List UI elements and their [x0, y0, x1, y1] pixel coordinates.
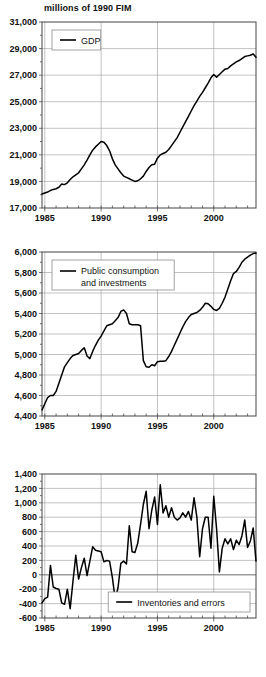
chart-panel-public-consumption: 4,4004,6004,8005,0005,2005,4005,6005,800…	[0, 228, 266, 456]
y-tick-label: 600	[22, 527, 37, 537]
legend-label: GDP	[81, 36, 101, 46]
y-tick-label: 800	[22, 512, 37, 522]
public-consumption-svg: 4,4004,6004,8005,0005,2005,4005,6005,800…	[0, 228, 266, 456]
x-tick-label: 1995	[147, 213, 167, 223]
x-tick-label: 1985	[35, 421, 55, 431]
legend-label: and investments	[81, 278, 147, 288]
y-tick-label: 5,400	[14, 309, 37, 319]
y-tick-label: 1,000	[14, 498, 37, 508]
y-tick-label: 5,800	[14, 268, 37, 278]
y-tick-label: 4,800	[14, 370, 37, 380]
data-series-2	[42, 485, 256, 609]
chart-panel-inventories: -600-400-20002004006008001,0001,2001,400…	[0, 456, 266, 677]
y-tick-label: 0	[32, 570, 37, 580]
y-tick-label: 6,000	[14, 247, 37, 257]
public-consumption-plot: 4,4004,6004,8005,0005,2005,4005,6005,800…	[0, 228, 266, 456]
y-tick-label: 21,000	[9, 150, 37, 160]
gdp-svg: 17,00019,00021,00023,00025,00027,00029,0…	[0, 0, 266, 228]
y-tick-label: 5,200	[14, 329, 37, 339]
y-tick-label: -600	[19, 613, 37, 623]
y-tick-label: 5,600	[14, 288, 37, 298]
chart-panel-gdp: millions of 1990 FIM 17,00019,00021,0002…	[0, 0, 266, 228]
y-tick-label: 27,000	[9, 70, 37, 80]
x-tick-label: 2000	[204, 421, 224, 431]
y-tick-label: 5,000	[14, 350, 37, 360]
y-tick-label: 1,200	[14, 484, 37, 494]
x-tick-label: 1995	[147, 421, 167, 431]
x-tick-label: 1990	[91, 421, 111, 431]
x-tick-label: 1995	[147, 623, 167, 633]
y-tick-label: 4,600	[14, 391, 37, 401]
figure-root: millions of 1990 FIM 17,00019,00021,0002…	[0, 0, 266, 677]
x-tick-label: 1985	[35, 623, 55, 633]
y-tick-label: 17,000	[9, 203, 37, 213]
x-tick-label: 1990	[91, 623, 111, 633]
inventories-plot: -600-400-20002004006008001,0001,2001,400…	[0, 456, 266, 677]
inventories-svg: -600-400-20002004006008001,0001,2001,400…	[0, 456, 266, 677]
x-tick-label: 1990	[91, 213, 111, 223]
x-tick-label: 1985	[35, 213, 55, 223]
gdp-plot: 17,00019,00021,00023,00025,00027,00029,0…	[0, 0, 266, 228]
y-tick-label: 1,400	[14, 469, 37, 479]
y-tick-label: 23,000	[9, 123, 37, 133]
x-tick-label: 2000	[204, 213, 224, 223]
y-tick-label: 29,000	[9, 44, 37, 54]
y-tick-label: 25,000	[9, 97, 37, 107]
y-tick-label: 400	[22, 541, 37, 551]
y-tick-label: -400	[19, 599, 37, 609]
y-tick-label: 19,000	[9, 177, 37, 187]
legend-label: Inventories and errors	[137, 598, 225, 608]
y-tick-label: 4,400	[14, 411, 37, 421]
legend-label: Public consumption	[81, 266, 159, 276]
x-tick-label: 2000	[204, 623, 224, 633]
y-tick-label: 31,000	[9, 17, 37, 27]
y-tick-label: 200	[22, 556, 37, 566]
y-tick-label: -200	[19, 584, 37, 594]
